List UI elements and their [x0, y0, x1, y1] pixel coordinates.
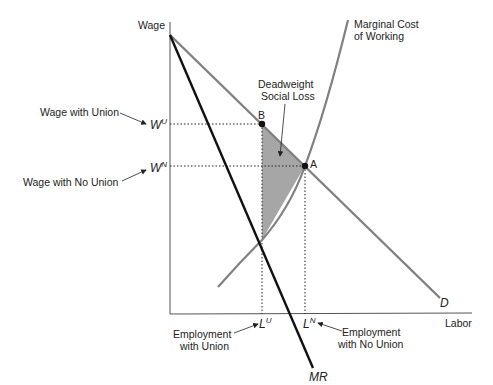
wage-no-union-annotation: Wage with No Union — [23, 176, 118, 188]
employment-union-annotation-line1: Employment — [173, 328, 231, 340]
employment-no-union-arrow — [318, 323, 342, 331]
demand-label: D — [440, 296, 449, 310]
wage-union-annotation: Wage with Union — [40, 106, 119, 118]
point-a — [302, 163, 308, 169]
y-axis-label: Wage — [138, 19, 165, 31]
labor-market-diagram: Wage Labor D MR Marginal Cost of Working… — [0, 0, 493, 385]
wage-no-union-arrow — [122, 170, 146, 181]
employment-no-union-symbol: LN — [303, 316, 316, 331]
mc-label-line1: Marginal Cost — [354, 18, 419, 30]
employment-no-union-annotation-line1: Employment — [342, 326, 400, 338]
employment-no-union-annotation-line2: with No Union — [337, 338, 404, 350]
point-a-label: A — [310, 158, 317, 170]
mc-label-line2: of Working — [354, 30, 404, 42]
x-axis-label: Labor — [445, 317, 472, 329]
x-axis — [170, 313, 472, 314]
employment-union-annotation-line2: with Union — [179, 340, 229, 352]
point-b-label: B — [258, 109, 265, 121]
wage-union-symbol: WU — [150, 117, 167, 132]
employment-union-arrow — [234, 324, 258, 333]
dwl-label-line2: Social Loss — [261, 90, 315, 102]
point-b — [259, 121, 265, 127]
employment-union-symbol: LU — [259, 316, 272, 331]
wage-no-union-symbol: WN — [150, 160, 167, 175]
mr-label: MR — [309, 370, 328, 384]
dwl-label-line1: Deadweight — [258, 78, 314, 90]
wage-union-arrow — [120, 113, 146, 124]
